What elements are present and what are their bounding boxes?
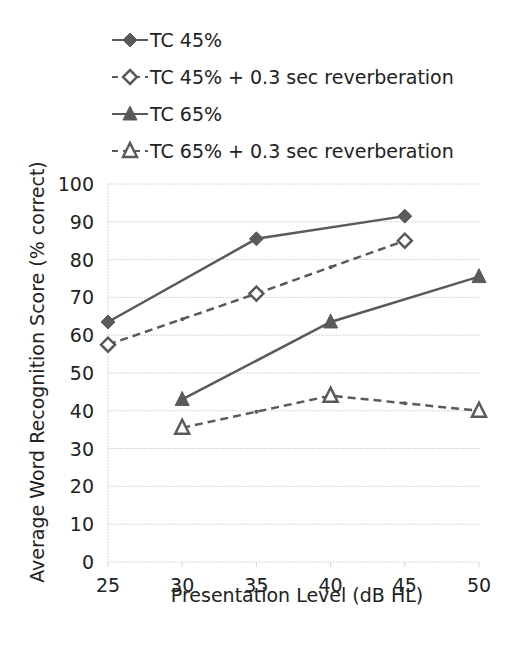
series-2 — [101, 234, 412, 352]
grid-lines — [108, 184, 479, 562]
midpoint-dot — [180, 317, 184, 321]
y-tick-label: 10 — [70, 513, 94, 535]
legend-item-4: TC 65% + 0.3 sec reverberation — [112, 140, 454, 162]
y-tick-label: 60 — [70, 324, 94, 346]
legend-item-3: TC 65% — [112, 103, 222, 125]
x-tick-label: 50 — [467, 574, 491, 596]
filled-triangle-marker — [175, 391, 189, 405]
filled-diamond-marker — [249, 232, 263, 246]
legend-label: TC 65% + 0.3 sec reverberation — [149, 140, 454, 162]
line-chart: 0102030405060708090100253035404550 TC 45… — [0, 0, 515, 658]
midpoint-dot — [254, 410, 258, 414]
legend-label: TC 65% — [149, 103, 222, 125]
x-tick-label: 25 — [96, 574, 120, 596]
legend-label: TC 45% — [149, 29, 222, 51]
legend-item-2: TC 45% + 0.3 sec reverberation — [112, 66, 454, 88]
y-tick-label: 40 — [70, 400, 94, 422]
filled-diamond-marker — [398, 209, 412, 223]
series-line — [182, 277, 479, 400]
filled-triangle-marker — [472, 269, 486, 283]
open-diamond-marker — [123, 70, 137, 84]
legend-item-1: TC 45% — [112, 29, 222, 51]
legend: TC 45%TC 45% + 0.3 sec reverberationTC 6… — [112, 29, 454, 162]
open-diamond-marker — [101, 338, 115, 352]
open-diamond-marker — [398, 234, 412, 248]
legend-label: TC 45% + 0.3 sec reverberation — [149, 66, 454, 88]
y-tick-label: 80 — [70, 249, 94, 271]
midpoint-dot — [403, 401, 407, 405]
data-series — [101, 209, 486, 434]
y-tick-label: 20 — [70, 475, 94, 497]
y-tick-label: 30 — [70, 438, 94, 460]
y-axis-title: Average Word Recognition Score (% correc… — [26, 161, 48, 583]
y-tick-label: 0 — [82, 551, 94, 573]
filled-diamond-marker — [123, 33, 137, 47]
open-diamond-marker — [249, 287, 263, 301]
y-tick-label: 90 — [70, 211, 94, 233]
open-triangle-marker — [324, 388, 338, 402]
y-tick-label: 100 — [58, 173, 94, 195]
y-tick-label: 70 — [70, 286, 94, 308]
y-tick-label: 50 — [70, 362, 94, 384]
filled-diamond-marker — [101, 315, 115, 329]
midpoint-dot — [329, 265, 333, 269]
open-triangle-marker — [472, 403, 486, 417]
x-axis-title: Presentation Level (dB HL) — [171, 584, 423, 606]
